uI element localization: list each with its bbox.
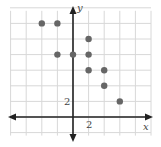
data-point bbox=[85, 51, 91, 57]
data-point bbox=[85, 67, 91, 73]
x-axis-arrow-left-icon bbox=[8, 114, 16, 121]
data-point bbox=[101, 83, 107, 89]
y-axis-arrow-down-icon bbox=[70, 134, 77, 142]
x-axis-label: x bbox=[143, 122, 149, 132]
y-tick-label: 2 bbox=[64, 97, 70, 107]
x-axis-arrow-right-icon bbox=[145, 114, 153, 121]
data-point bbox=[54, 51, 60, 57]
data-point bbox=[70, 51, 76, 57]
data-point bbox=[101, 67, 107, 73]
y-axis-label: y bbox=[77, 3, 83, 13]
data-point bbox=[117, 98, 123, 104]
y-axis-arrow-up-icon bbox=[70, 6, 77, 14]
scatter-plot bbox=[0, 0, 161, 147]
x-tick-label: 2 bbox=[86, 120, 92, 130]
data-point bbox=[54, 20, 60, 26]
data-point bbox=[85, 36, 91, 42]
data-point bbox=[39, 20, 45, 26]
